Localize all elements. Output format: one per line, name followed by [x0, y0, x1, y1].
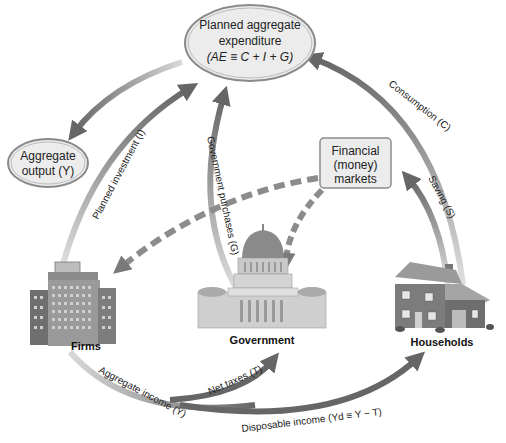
planned-investment-arrow [62, 88, 190, 268]
aggregate-income-label: Aggregate income (Y) [97, 364, 188, 419]
financial-markets-node: Financial (money) markets [320, 138, 391, 188]
planned-aggregate-expenditure-node: Planned aggregate expenditure (AE ≡ C + … [185, 5, 315, 81]
aggregate-output-node: Aggregate output (Y) [8, 139, 88, 187]
planned-ae-line2: expenditure [219, 34, 282, 48]
households-label: Households [411, 336, 474, 348]
office-building-icon [30, 262, 116, 346]
financial-markets-line3: markets [334, 172, 377, 186]
ae-to-output-arrow [74, 62, 182, 133]
financial-to-government-dashed-arrow [286, 190, 322, 262]
financial-markets-line1: Financial [331, 144, 379, 158]
house-icon [395, 262, 494, 333]
planned-ae-line1: Planned aggregate [199, 18, 301, 32]
financial-markets-line2: (money) [333, 158, 377, 172]
government-label: Government [230, 334, 295, 346]
planned-ae-line3: (AE ≡ C + I + G) [207, 50, 293, 64]
firms-label: Firms [71, 340, 101, 352]
aggregate-output-line1: Aggregate [20, 149, 76, 163]
circular-flow-diagram: Planned aggregate expenditure (AE ≡ C + … [0, 0, 506, 443]
consumption-label: Consumption (C) [387, 78, 453, 133]
aggregate-output-line2: output (Y) [22, 164, 75, 178]
net-taxes-label: Net taxes (T) [206, 363, 263, 397]
